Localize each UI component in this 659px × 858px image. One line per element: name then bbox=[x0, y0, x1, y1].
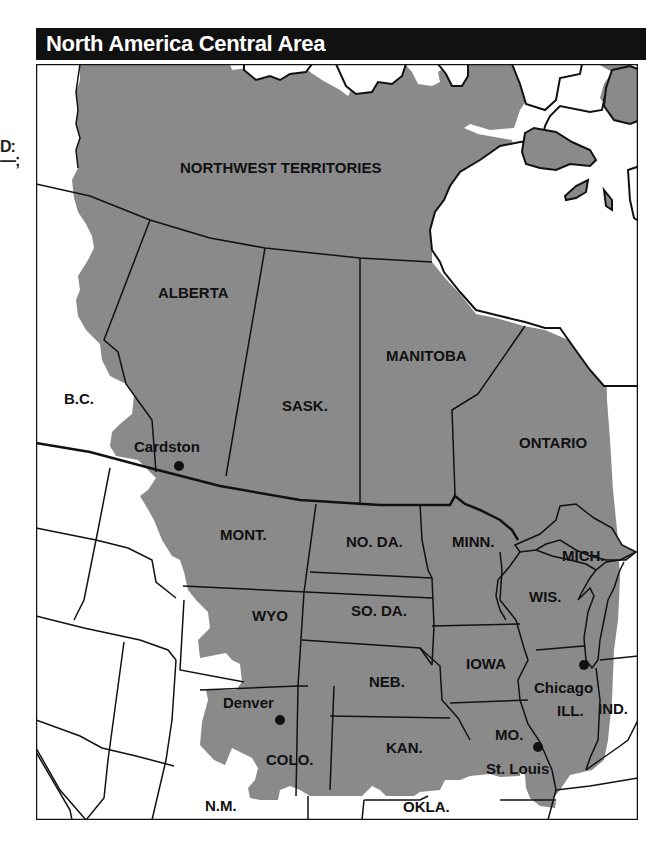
city-dot-chicago bbox=[579, 660, 589, 670]
label-mont: MONT. bbox=[220, 526, 267, 543]
label-northwest-territories: NORTHWEST TERRITORIES bbox=[180, 159, 381, 176]
city-dot-denver bbox=[275, 715, 285, 725]
label-mo: MO. bbox=[495, 726, 523, 743]
label-st-louis: St. Louis bbox=[486, 760, 549, 777]
label-cardston: Cardston bbox=[134, 438, 200, 455]
label-iowa: IOWA bbox=[466, 655, 506, 672]
city-dot-st-louis bbox=[533, 742, 543, 752]
label-colo: COLO. bbox=[266, 751, 314, 768]
label-ill: ILL. bbox=[557, 702, 584, 719]
label-okla: OKLA. bbox=[403, 798, 450, 815]
label-alberta: ALBERTA bbox=[158, 284, 229, 301]
label-mich: MICH. bbox=[562, 547, 605, 564]
label-ontario: ONTARIO bbox=[519, 434, 587, 451]
label-minn: MINN. bbox=[452, 533, 495, 550]
label-bc: B.C. bbox=[64, 390, 94, 407]
label-nm: N.M. bbox=[205, 797, 237, 814]
label-wis: WIS. bbox=[529, 588, 562, 605]
map: NORTHWEST TERRITORIES ALBERTA B.C. MANIT… bbox=[0, 0, 659, 858]
label-neb: NEB. bbox=[369, 673, 405, 690]
label-no-da: NO. DA. bbox=[346, 533, 403, 550]
label-kan: KAN. bbox=[386, 739, 423, 756]
label-so-da: SO. DA. bbox=[351, 602, 407, 619]
label-sask: SASK. bbox=[282, 397, 328, 414]
label-manitoba: MANITOBA bbox=[386, 347, 467, 364]
label-ind: IND. bbox=[598, 700, 628, 717]
label-wyo: WYO bbox=[252, 607, 288, 624]
city-dot-cardston bbox=[174, 461, 184, 471]
label-chicago: Chicago bbox=[534, 679, 593, 696]
label-denver: Denver bbox=[223, 694, 274, 711]
